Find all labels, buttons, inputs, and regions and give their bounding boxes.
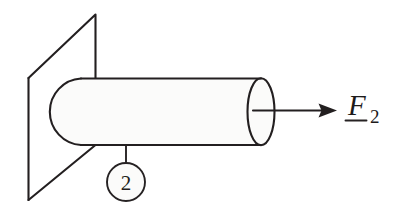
figure-canvas: 2 F 2 xyxy=(0,0,400,217)
force-subscript: 2 xyxy=(370,106,380,127)
wall-lower-outline xyxy=(29,145,96,200)
force-label: F 2 xyxy=(346,89,380,127)
body-callout: 2 xyxy=(107,146,145,202)
cylinder-force-diagram: 2 F 2 xyxy=(0,0,400,217)
force-symbol: F xyxy=(347,89,366,121)
wall-upper-outline xyxy=(29,15,96,79)
callout-number: 2 xyxy=(121,171,132,195)
cylinder-surface-fill xyxy=(50,79,273,146)
cylinder-body xyxy=(50,78,275,145)
